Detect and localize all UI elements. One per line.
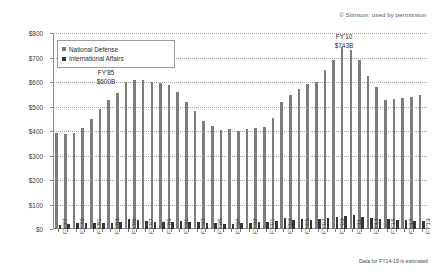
bar-national-defense[interactable]: [332, 60, 335, 229]
bar-national-defense[interactable]: [185, 102, 188, 229]
bar-international-affairs[interactable]: [396, 220, 399, 229]
bar-group[interactable]: [332, 33, 338, 229]
y-axis-tick-mark: [50, 229, 53, 230]
bar-national-defense[interactable]: [367, 76, 370, 229]
bar-group[interactable]: [367, 33, 373, 229]
bar-national-defense[interactable]: [375, 87, 378, 229]
bar-national-defense[interactable]: [90, 119, 93, 229]
x-axis-tick-label: FY'07: [320, 219, 327, 234]
bar-international-affairs[interactable]: [258, 222, 261, 229]
bar-group[interactable]: [194, 33, 200, 229]
bar-national-defense[interactable]: [228, 129, 231, 229]
bar-group[interactable]: [375, 33, 381, 229]
bar-national-defense[interactable]: [220, 130, 223, 229]
bar-national-defense[interactable]: [280, 102, 283, 229]
bar-national-defense[interactable]: [401, 98, 404, 229]
bar-international-affairs[interactable]: [327, 218, 330, 229]
bar-group[interactable]: [176, 33, 182, 229]
bar-national-defense[interactable]: [419, 95, 422, 229]
bar-group[interactable]: [237, 33, 243, 229]
bar-group[interactable]: [228, 33, 234, 229]
bar-group[interactable]: [315, 33, 321, 229]
bar-national-defense[interactable]: [384, 100, 387, 229]
bar-national-defense[interactable]: [64, 134, 67, 229]
bar-national-defense[interactable]: [324, 70, 327, 229]
bar-group[interactable]: [384, 33, 390, 229]
bar-national-defense[interactable]: [410, 97, 413, 229]
bar-national-defense[interactable]: [176, 92, 179, 229]
bar-national-defense[interactable]: [289, 95, 292, 229]
bar-group[interactable]: [410, 33, 416, 229]
bar-national-defense[interactable]: [202, 121, 205, 229]
bar-national-defense[interactable]: [194, 111, 197, 229]
bar-national-defense[interactable]: [211, 126, 214, 229]
bar-national-defense[interactable]: [254, 128, 257, 229]
bar-group[interactable]: [263, 33, 269, 229]
x-axis-tick-mark: [93, 229, 94, 232]
budget-bar-chart: © Stimson; used by permission $0$100$200…: [0, 0, 434, 279]
bar-national-defense[interactable]: [151, 82, 154, 229]
x-axis-tick-mark: [76, 229, 77, 232]
bar-international-affairs[interactable]: [379, 219, 382, 229]
bar-group[interactable]: [185, 33, 191, 229]
bar-group[interactable]: [324, 33, 330, 229]
bar-group[interactable]: [306, 33, 312, 229]
bar-national-defense[interactable]: [99, 109, 102, 229]
bar-group[interactable]: [393, 33, 399, 229]
bar-national-defense[interactable]: [81, 128, 84, 229]
bar-national-defense[interactable]: [142, 80, 145, 229]
bar-group[interactable]: [289, 33, 295, 229]
bar-group[interactable]: [401, 33, 407, 229]
bar-national-defense[interactable]: [298, 89, 301, 229]
bar-national-defense[interactable]: [350, 50, 353, 229]
legend-item-label: National Defense: [69, 46, 118, 53]
bar-national-defense[interactable]: [315, 82, 318, 229]
bar-international-affairs[interactable]: [154, 222, 157, 229]
x-axis-tick-mark: [214, 229, 215, 232]
bar-group[interactable]: [254, 33, 260, 229]
bar-national-defense[interactable]: [341, 47, 344, 229]
bar-group[interactable]: [341, 33, 347, 229]
bar-group[interactable]: [350, 33, 356, 229]
bar-national-defense[interactable]: [306, 84, 309, 229]
bar-national-defense[interactable]: [159, 83, 162, 230]
bar-group[interactable]: [419, 33, 425, 229]
x-axis-tick-label: FY'09: [338, 219, 345, 234]
bar-national-defense[interactable]: [393, 99, 396, 229]
bar-national-defense[interactable]: [55, 133, 58, 229]
y-axis-tick-mark: [50, 131, 53, 132]
bar-national-defense[interactable]: [125, 82, 128, 229]
bar-group[interactable]: [220, 33, 226, 229]
x-axis-tick-mark: [249, 229, 250, 232]
x-axis-tick-label: FY'13: [372, 219, 379, 234]
bar-national-defense[interactable]: [168, 85, 171, 229]
x-axis-tick-mark: [197, 229, 198, 232]
x-axis-tick-label: FY'83: [113, 219, 120, 234]
bar-group[interactable]: [272, 33, 278, 229]
bar-national-defense[interactable]: [107, 100, 110, 229]
bar-group[interactable]: [246, 33, 252, 229]
x-axis-tick-mark: [179, 229, 180, 232]
bar-national-defense[interactable]: [73, 133, 76, 229]
bar-group[interactable]: [211, 33, 217, 229]
bar-national-defense[interactable]: [237, 131, 240, 229]
bar-national-defense[interactable]: [358, 60, 361, 229]
bar-national-defense[interactable]: [246, 129, 249, 229]
x-axis-tick-label: FY'87: [147, 219, 154, 234]
bar-international-affairs[interactable]: [275, 221, 278, 229]
y-axis-tick-label: $300: [3, 152, 43, 159]
legend-item-national-defense: National Defense: [62, 45, 167, 54]
x-axis-tick-mark: [387, 229, 388, 232]
bar-national-defense[interactable]: [263, 127, 266, 229]
copyright-notice: © Stimson; used by permission: [339, 11, 426, 18]
bar-group[interactable]: [202, 33, 208, 229]
bar-national-defense[interactable]: [272, 118, 275, 229]
y-axis-tick-mark: [50, 156, 53, 157]
bar-national-defense[interactable]: [116, 93, 119, 229]
y-axis-tick-mark: [50, 33, 53, 34]
bar-group[interactable]: [358, 33, 364, 229]
bar-group[interactable]: [280, 33, 286, 229]
bar-national-defense[interactable]: [133, 80, 136, 229]
bar-group[interactable]: [298, 33, 304, 229]
y-axis-tick-mark: [50, 180, 53, 181]
